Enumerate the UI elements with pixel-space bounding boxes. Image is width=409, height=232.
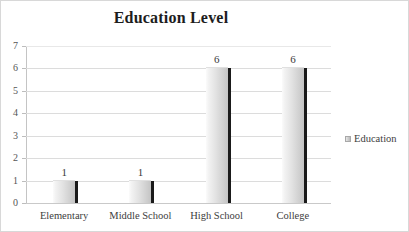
x-axis-category-label: Elementary	[24, 210, 104, 221]
x-axis-category-label: College	[253, 210, 333, 221]
plot-area	[26, 46, 331, 203]
chart-legend: Education	[345, 133, 397, 144]
bar-shadow-edge	[151, 181, 154, 203]
gridline	[26, 46, 331, 47]
bar-value-label: 1	[120, 167, 160, 178]
bar-shadow-edge	[75, 181, 78, 203]
legend-item-label: Education	[354, 133, 397, 144]
y-axis-tick-label: 7	[1, 41, 18, 51]
y-axis-tick-mark	[22, 181, 26, 182]
y-axis-tick-mark	[22, 91, 26, 92]
y-axis-tick-mark	[22, 158, 26, 159]
y-axis-tick-label: 5	[1, 86, 18, 96]
y-axis-tick-mark	[22, 136, 26, 137]
gridline	[26, 203, 331, 204]
chart-container: Education Level Education 012345671Eleme…	[0, 0, 409, 232]
bar-shadow-edge	[304, 68, 307, 203]
bar[interactable]	[282, 67, 304, 203]
y-axis-tick-label: 4	[1, 108, 18, 118]
bar-value-label: 6	[197, 54, 237, 65]
bar-value-label: 1	[44, 167, 84, 178]
bar-shadow-edge	[228, 68, 231, 203]
bar-value-label: 6	[273, 54, 313, 65]
chart-title: Education Level	[1, 9, 341, 27]
x-axis-category-label: High School	[177, 210, 257, 221]
y-axis-tick-label: 1	[1, 176, 18, 186]
legend-square-icon	[345, 136, 351, 142]
y-axis-tick-label: 2	[1, 153, 18, 163]
y-axis-tick-label: 6	[1, 63, 18, 73]
y-axis-tick-label: 0	[1, 198, 18, 208]
bar[interactable]	[129, 180, 151, 203]
y-axis-tick-mark	[22, 46, 26, 47]
bar[interactable]	[53, 180, 75, 203]
x-axis-category-label: Middle School	[100, 210, 180, 221]
bar-group[interactable]	[129, 181, 154, 203]
y-axis-tick-mark	[22, 203, 26, 204]
bar[interactable]	[206, 67, 228, 203]
bar-group[interactable]	[282, 68, 307, 203]
bar-group[interactable]	[53, 181, 78, 203]
bar-group[interactable]	[206, 68, 231, 203]
y-axis-tick-mark	[22, 68, 26, 69]
y-axis-tick-mark	[22, 113, 26, 114]
y-axis-tick-label: 3	[1, 131, 18, 141]
